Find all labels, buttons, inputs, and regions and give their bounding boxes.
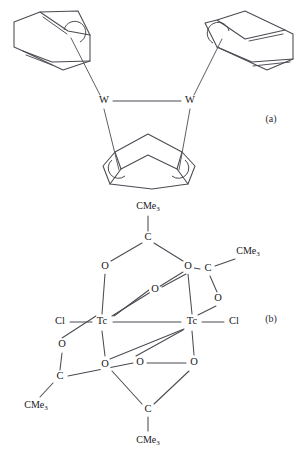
bond-o-lower-left-to-tc-right: [110, 329, 184, 359]
chemical-structure-figure: W W (a): [0, 0, 299, 451]
bond-c-to-o-bottom-left: [112, 371, 142, 404]
label-halos: [55, 232, 225, 416]
atom-label-w-left: W: [99, 94, 109, 105]
cod-ligand-top-left: [14, 11, 100, 95]
cod-ligand-bottom: [103, 109, 195, 189]
cme3-top-sub: 3: [156, 205, 160, 213]
w-w-core: W W: [99, 94, 195, 105]
pi-coordination-arc-tr: [207, 22, 229, 43]
cme3-bottom-text: CMe: [136, 434, 157, 445]
bond-o-to-tc-bottom-left: [102, 331, 105, 356]
cod-double-bond-tr-2: [253, 62, 290, 66]
cod-edge-bottom-inner: [115, 152, 182, 169]
bond-c-to-cme3-lower-left: [40, 383, 53, 397]
cme3-bottom-sub: 3: [156, 439, 160, 447]
bond-o-to-tc-left-lower: [62, 316, 96, 338]
bond-c-to-o-top-right: [154, 243, 183, 261]
bond-cod-tr-to-w-right: [194, 39, 222, 95]
bond-c-to-o-right-lower: [210, 276, 217, 292]
cod-edge-bottom-right: [177, 169, 188, 184]
atom-label-o-bottom-middle: O: [136, 356, 144, 367]
atom-label-o-top-left: O: [101, 260, 109, 271]
atom-label-c-bottom: C: [144, 403, 151, 414]
cod-double-bond-tl-1: [43, 17, 67, 34]
bond-c-to-o-top-left: [111, 243, 142, 261]
atom-label-tc-left: Tc: [97, 315, 108, 326]
atom-label-o-top-right: O: [184, 260, 192, 271]
bond-o-to-tc-top-right: [188, 274, 192, 314]
cme3-lower-left-text: CMe: [24, 399, 45, 410]
atom-label-tc-right: Tc: [187, 315, 198, 326]
figure-root: W W (a): [0, 0, 299, 451]
bond-c-to-o-bottom-right: [154, 371, 189, 404]
cod-edge-bottom-left: [110, 169, 121, 184]
atom-label-cl-left: Cl: [55, 315, 65, 326]
cme3-right-text: CMe: [236, 245, 257, 256]
cme3-lower-left-sub: 3: [44, 404, 48, 412]
atom-label-cl-right: Cl: [229, 315, 239, 326]
pivalate-bridge-lower-left: [40, 316, 186, 397]
panel-label-b: (b): [265, 313, 277, 325]
cme3-top-text: CMe: [136, 200, 157, 211]
group-label-cme3-lower-left: CMe3: [24, 399, 48, 412]
group-label-cme3-bottom: CMe3: [136, 434, 160, 447]
bond-o-to-tc-right-upper: [198, 306, 216, 315]
cod-double-bond-tr-1: [249, 34, 283, 41]
cod-ligand-top-right: [194, 11, 293, 95]
atom-label-c-top: C: [144, 231, 151, 242]
structure-b-labels: Tc Tc Cl Cl C C C C O O O O O O O O CMe3…: [24, 200, 260, 447]
cod-edge-tr-lower: [217, 47, 293, 62]
group-label-cme3-top: CMe3: [136, 200, 160, 213]
panel-label-a: (a): [265, 113, 276, 125]
atom-label-o-right: O: [214, 292, 222, 303]
atom-label-o-left: O: [58, 338, 66, 349]
atom-label-o-middle: O: [151, 283, 159, 294]
structure-b: Tc Tc Cl Cl C C C C O O O O O O O O CMe3…: [24, 200, 277, 447]
bond-o-to-c-lower-left: [60, 353, 62, 370]
bond-o-lower-mid-to-tc-right: [136, 330, 183, 356]
bond-cod-bottom-to-w-right: [179, 109, 190, 170]
bond-c-to-o-upper-right: [194, 268, 200, 269]
bond-o-to-tc-bottom-right: [192, 331, 194, 355]
pivalate-bridge-upper-right: [112, 259, 235, 316]
bond-o-mid-to-o-upper-right: [162, 274, 186, 287]
pi-coordination-arc-tl: [64, 21, 86, 42]
bond-cod-tl-to-w-left: [71, 38, 100, 95]
atom-label-c-lower-left: C: [56, 370, 63, 381]
cod-edge-tl-upper: [40, 12, 90, 35]
atom-label-w-right: W: [185, 94, 195, 105]
bond-c-to-cme3-right: [215, 259, 235, 266]
bond-o-mid-to-tc-left: [114, 290, 149, 316]
atom-label-o-bottom-right: O: [190, 356, 198, 367]
structure-a: W W (a): [14, 11, 293, 189]
bond-o-to-tc-top-left: [102, 274, 105, 314]
atom-label-o-bottom-left: O: [101, 358, 109, 369]
cme3-right-sub: 3: [256, 250, 260, 258]
atom-label-c-right: C: [204, 262, 211, 273]
group-label-cme3-right: CMe3: [236, 245, 260, 258]
